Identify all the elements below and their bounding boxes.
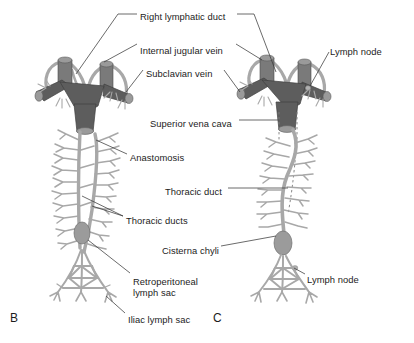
panel-b-iliac-plexus — [58, 250, 108, 292]
leader-anastomosis — [96, 140, 127, 154]
label-cisterna-chyli: Cisterna chyli — [162, 245, 219, 256]
leader-internal-jugular-vein-c — [236, 44, 262, 60]
panel-letter-c: C — [213, 311, 222, 325]
label-lymph-node-bottom: Lymph node — [307, 274, 359, 285]
leader-cisterna-chyli — [221, 236, 276, 246]
label-internal-jugular-vein: Internal jugular vein — [140, 45, 223, 56]
panel-c-illustration — [237, 55, 331, 303]
leader-internal-jugular-vein-b — [104, 44, 137, 62]
panel-b-retroperitoneal-lymph-sac — [74, 222, 90, 244]
label-thoracic-ducts: Thoracic ducts — [126, 215, 188, 226]
panel-c-lymph-branches-right — [284, 135, 317, 228]
label-right-lymphatic-duct: Right lymphatic duct — [140, 11, 225, 22]
label-lymph-node-top: Lymph node — [330, 46, 382, 57]
leader-subclavian-vein-c — [224, 70, 240, 92]
leader-thoracic-ducts-left — [82, 196, 123, 216]
leader-iliac-lymph-sac — [106, 296, 125, 313]
leader-retroperitoneal-lymph-sac — [88, 240, 130, 273]
leader-thoracic-ducts-right — [92, 206, 123, 216]
label-anastomosis: Anastomosis — [130, 152, 184, 163]
panel-c-iliac-plexus — [259, 255, 309, 292]
leader-subclavian-vein-b — [126, 70, 143, 92]
label-subclavian-vein: Subclavian vein — [146, 68, 212, 79]
panel-b-iliac-lymph-sacs — [50, 292, 116, 302]
panel-c-lymph-node-upper — [305, 86, 310, 90]
leader-lymph-node-top — [310, 52, 329, 86]
label-thoracic-duct: Thoracic duct — [165, 186, 222, 197]
label-retroperitoneal-lymph-sac-line1: Retroperitoneal — [133, 276, 198, 287]
label-iliac-lymph-sac: Iliac lymph sac — [128, 314, 190, 325]
label-retroperitoneal-lymph-sac-line2: lymph sac — [133, 287, 176, 298]
lymphatic-development-figure: .vD{fill:#5d5d5d;stroke:#3f3f3f;stroke-w… — [0, 0, 414, 343]
label-superior-vena-cava: Superior vena cava — [150, 118, 232, 129]
panel-b-illustration — [35, 57, 133, 302]
panel-letter-b: B — [10, 311, 18, 325]
panel-c-cisterna-chyli — [274, 231, 292, 255]
